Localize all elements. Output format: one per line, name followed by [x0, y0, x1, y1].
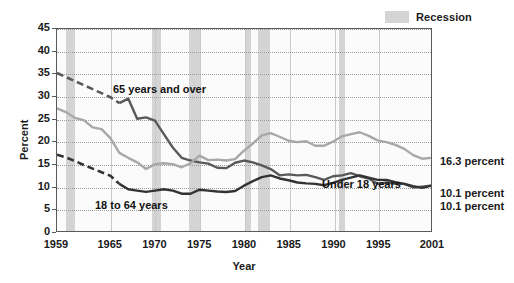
- end-label-18-to-64-years: 10.1 percent: [440, 187, 504, 199]
- y-axis-tick-label: 10: [16, 180, 50, 192]
- end-label-under-18-years: 16.3 percent: [440, 155, 504, 167]
- y-axis-tick-label: 5: [16, 202, 50, 214]
- x-axis-tick-label: 1975: [177, 238, 221, 250]
- y-axis-tick-mark: [52, 141, 56, 142]
- poverty-rate-chart: Recession 051015202530354045195919651970…: [0, 0, 514, 283]
- y-axis-title: Percent: [18, 120, 30, 160]
- y-axis-tick-mark: [52, 209, 56, 210]
- y-axis-tick-mark: [52, 164, 56, 165]
- x-axis-tick-label: 1970: [132, 238, 176, 250]
- x-axis-tick-label: 1995: [356, 238, 400, 250]
- y-axis-tick-mark: [52, 73, 56, 74]
- legend-label-recession: Recession: [416, 11, 472, 23]
- x-axis-tick-label: 1959: [34, 238, 78, 250]
- y-axis-tick-mark: [52, 96, 56, 97]
- x-axis-tick-label: 2001: [410, 238, 454, 250]
- series-line-dashed-2: [57, 155, 119, 184]
- y-axis-tick-mark: [52, 232, 56, 233]
- x-axis-tick-label: 1965: [88, 238, 132, 250]
- annotation-65-years-and-over: 65 years and over: [113, 83, 206, 95]
- x-axis-tick-label: 1980: [222, 238, 266, 250]
- annotation-under-18-years: Under 18 years: [322, 178, 401, 190]
- y-axis-tick-mark: [52, 28, 56, 29]
- series-line-0: [119, 99, 431, 188]
- y-axis-tick-label: 45: [16, 21, 50, 33]
- x-axis-tick-label: 1985: [267, 238, 311, 250]
- x-axis-tick-label: 1990: [312, 238, 356, 250]
- y-axis-tick-mark: [52, 187, 56, 188]
- x-axis-title: Year: [56, 260, 432, 272]
- y-axis-tick-mark: [52, 119, 56, 120]
- recession-swatch-icon: [385, 11, 409, 23]
- annotation-18-to-64-years: 18 to 64 years: [95, 199, 168, 211]
- series-line-dashed-0: [57, 73, 119, 103]
- y-axis-tick-label: 30: [16, 89, 50, 101]
- end-label-65-years-and-over: 10.1 percent: [440, 200, 504, 212]
- y-axis-tick-label: 35: [16, 66, 50, 78]
- chart-legend: Recession: [385, 11, 472, 23]
- y-axis-tick-label: 0: [16, 225, 50, 237]
- y-axis-tick-label: 40: [16, 44, 50, 56]
- y-axis-tick-mark: [52, 51, 56, 52]
